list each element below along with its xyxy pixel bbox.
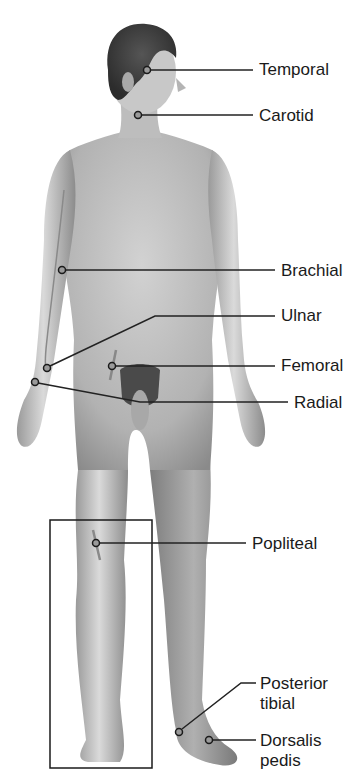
ear (122, 72, 134, 92)
label-dorsalis-pedis-line2: pedis (260, 751, 301, 770)
temporal-marker-icon (144, 67, 151, 74)
label-femoral: Femoral (281, 356, 343, 375)
label-popliteal: Popliteal (252, 534, 317, 553)
femoral-marker-icon (109, 363, 116, 370)
dorsalis-pedis-marker-icon (206, 737, 213, 744)
radial-marker-icon (32, 379, 39, 386)
label-posterior-tibial-line2: tibial (260, 694, 295, 713)
left-arm (17, 150, 76, 447)
left-leg (76, 470, 128, 762)
body-illustration (17, 24, 265, 766)
genitals (131, 390, 149, 430)
ulnar-marker-icon (44, 365, 51, 372)
brachial-marker-icon (59, 267, 66, 274)
posterior-tibial-marker-icon (176, 729, 183, 736)
label-radial: Radial (294, 393, 342, 412)
label-carotid: Carotid (259, 106, 314, 125)
label-ulnar: Ulnar (281, 306, 322, 325)
popliteal-marker-icon (93, 540, 100, 547)
carotid-marker-icon (135, 112, 142, 119)
label-brachial: Brachial (281, 261, 342, 280)
label-posterior-tibial-line1: Posterior (260, 674, 328, 693)
nose (176, 78, 186, 92)
label-temporal: Temporal (259, 60, 329, 79)
label-dorsalis-pedis-line1: Dorsalis (260, 731, 321, 750)
